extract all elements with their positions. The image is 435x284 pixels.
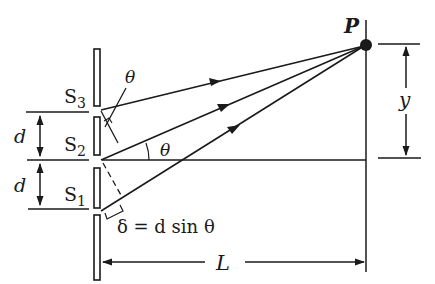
- perpendicular-s2: [101, 111, 118, 143]
- barrier-s2-segment: [94, 117, 100, 155]
- point-p-label: P: [343, 14, 360, 38]
- slit-barrier: [94, 49, 100, 280]
- arrowhead-ray-s2: [217, 104, 230, 112]
- slit3-label: S3: [64, 85, 86, 111]
- ray-from-s3: [101, 46, 364, 110]
- d-label-upper: d: [14, 125, 26, 147]
- three-slit-diagram: P θ θ S3 S2 S1 d d δ = d sin θ L y: [0, 0, 435, 284]
- slit1-label: S1: [64, 183, 86, 209]
- d-label-lower: d: [14, 174, 26, 196]
- point-p-dot: [360, 39, 372, 51]
- barrier-bottom-segment: [94, 215, 100, 280]
- slit-labels: S3 S2 S1: [64, 85, 86, 209]
- slit2-label: S2: [64, 133, 86, 159]
- theta-axis-label: θ: [160, 140, 170, 160]
- l-label: L: [215, 251, 230, 275]
- theta-arc: [146, 143, 149, 160]
- theta-top-label: θ: [125, 67, 135, 87]
- ray-arrowheads: [209, 78, 240, 134]
- path-difference-label: δ = d sin θ: [117, 216, 215, 237]
- barrier-s1-segment: [94, 168, 100, 208]
- barrier-top-segment: [94, 49, 100, 106]
- arrowhead-ray-s1: [227, 125, 240, 134]
- dashed-perpendicular: [103, 163, 122, 197]
- ray-from-s2: [101, 46, 364, 160]
- y-label: y: [398, 88, 411, 112]
